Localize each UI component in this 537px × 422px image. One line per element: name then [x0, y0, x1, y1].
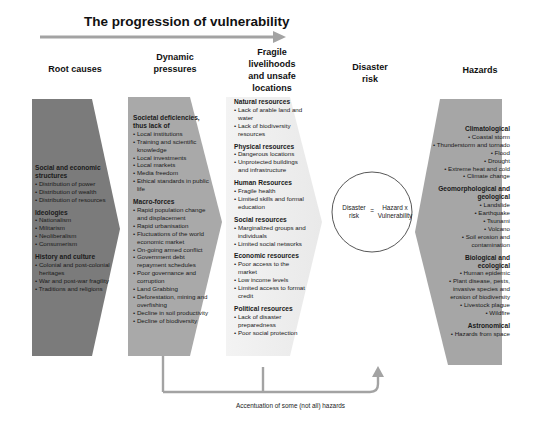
heading-line: and unsafe: [222, 70, 322, 82]
heading-line: risk: [330, 73, 410, 85]
feedback-caption: Accentuation of some (not all) hazards: [236, 402, 345, 409]
list-item: • Soil erosion and contamination: [432, 233, 510, 249]
list-item: • Tsunami: [432, 217, 510, 225]
list-item: • Coastal storm: [432, 133, 510, 141]
list-item: • Wildfire: [432, 309, 510, 317]
list-item: • War and post-war fragility: [35, 277, 113, 285]
section-title: Natural resources: [234, 98, 308, 106]
list-item: • Low income levels: [234, 276, 308, 284]
list-item: • Training and scientific knowledge: [133, 138, 213, 154]
list-item: • Limited social networks: [234, 240, 308, 248]
list-item: • Marginalized groups and individuals: [234, 224, 308, 240]
section-title: Geomorphological and geological: [432, 185, 510, 201]
list-item: • Poor access to the market: [234, 260, 308, 276]
section-title: Physical resources: [234, 143, 308, 151]
section-title: Biological and ecological: [432, 254, 510, 270]
list-item: • Lack of disaster preparedness: [234, 313, 308, 329]
list-item: • Decline of biodiversity: [133, 317, 213, 325]
equation-text: Disaster: [339, 204, 369, 212]
equation-text: Hazard x: [374, 204, 416, 212]
list-item: • Human epidemic: [432, 269, 510, 277]
list-item: • Hazards from space: [432, 330, 510, 338]
list-item: • Neoliberalism: [35, 232, 113, 240]
list-item: • Extreme heat and cold: [432, 165, 510, 173]
section-title: Ideologies: [35, 209, 113, 217]
list-item: • Local investments: [133, 154, 213, 162]
list-item: • Drought: [432, 157, 510, 165]
list-item: • Landslide: [432, 201, 510, 209]
list-item: • Fluctuations of the world economic mar…: [133, 230, 213, 246]
list-item: • Ethical standards in public life: [133, 177, 213, 193]
section-title: Political resources: [234, 305, 308, 313]
list-item: • Land Grabbing: [133, 285, 213, 293]
heading-root-causes: Root causes: [30, 63, 120, 75]
list-item: • Government debt repayment schedules: [133, 253, 213, 269]
section-title: Macro-forces: [133, 198, 213, 206]
section-title: Economic resources: [234, 252, 308, 260]
section-title: Astronomical: [432, 322, 510, 330]
progression-arrow: [40, 31, 286, 43]
list-item: • Dangerous locations: [234, 150, 308, 158]
section-title: Social and economic structures: [35, 164, 113, 180]
list-item: • Limited skills and formal education: [234, 195, 308, 211]
list-item: • Media freedom: [133, 169, 213, 177]
section-title: Social resources: [234, 216, 308, 224]
hazards-content: Climatological • Coastal storm • Thunder…: [432, 125, 510, 338]
list-item: • Flood: [432, 149, 510, 157]
equation-text: Vulnerability: [374, 212, 416, 220]
list-item: • Local markets: [133, 161, 213, 169]
list-item: • Thunderstorm and tornado: [432, 141, 510, 149]
heading-line: Dynamic: [125, 51, 225, 63]
dynamic-pressures-content: Societal deficiencies, thus lack of • Lo…: [133, 114, 213, 325]
section-title: Climatological: [432, 125, 510, 133]
list-item: • Colonial and post-colonial heritages: [35, 261, 113, 277]
list-item: • Decline in soil productivity: [133, 309, 213, 317]
list-item: • Lack of biodiversity resources: [234, 122, 308, 138]
list-item: • Distribution of wealth: [35, 188, 113, 196]
root-causes-content: Social and economic structures • Distrib…: [35, 164, 113, 293]
equation-right: Hazard x Vulnerability: [374, 204, 416, 220]
heading-line: livelihoods: [222, 58, 322, 70]
list-item: • On-going armed conflict: [133, 246, 213, 254]
heading-hazards: Hazards: [440, 64, 520, 76]
feedback-arrow: [163, 356, 378, 392]
heading-line: Disaster: [330, 61, 410, 73]
list-item: • Rapid urbanisation: [133, 222, 213, 230]
list-item: • Volcano: [432, 225, 510, 233]
list-item: • Earthquake: [432, 209, 510, 217]
list-item: • Distribution of power: [35, 180, 113, 188]
list-item: • Lack of arable land and water: [234, 106, 308, 122]
list-item: • Consumerism: [35, 240, 113, 248]
list-item: • Nationalism: [35, 216, 113, 224]
diagram-title: The progression of vulnerability: [84, 14, 290, 29]
heading-line: locations: [222, 82, 322, 94]
heading-fragile-livelihoods: Fragile livelihoods and unsafe locations: [222, 46, 322, 94]
list-item: • Deforestation, mining and overfishing: [133, 293, 213, 309]
section-title: Societal deficiencies, thus lack of: [133, 114, 213, 130]
list-item: • Fragile health: [234, 187, 308, 195]
list-item: • Limited access to format credit: [234, 284, 308, 300]
heading-line: pressures: [125, 63, 225, 75]
feedback-arrowhead: [372, 366, 384, 377]
equation-left: Disaster risk: [339, 204, 369, 220]
list-item: • Poor social protection: [234, 329, 308, 337]
fragile-livelihoods-content: Natural resources • Lack of arable land …: [234, 98, 308, 336]
list-item: • Poor governance and corruption: [133, 269, 213, 285]
section-title: History and culture: [35, 253, 113, 261]
list-item: • Traditions and religions: [35, 285, 113, 293]
list-item: • Rapid population change and displaceme…: [133, 206, 213, 222]
section-title: Human Resources: [234, 179, 308, 187]
list-item: • Climate change: [432, 172, 510, 180]
heading-dynamic-pressures: Dynamic pressures: [125, 51, 225, 75]
list-item: • Plant disease, pests, invasive species…: [432, 277, 510, 301]
heading-disaster-risk: Disaster risk: [330, 61, 410, 85]
list-item: • Livestock plague: [432, 301, 510, 309]
list-item: • Distribution of resources: [35, 196, 113, 204]
heading-line: Fragile: [222, 46, 322, 58]
equation-text: risk: [339, 212, 369, 220]
list-item: • Militarism: [35, 224, 113, 232]
list-item: • Unprotected buildings and infrastructu…: [234, 158, 308, 174]
list-item: • Local institutions: [133, 130, 213, 138]
